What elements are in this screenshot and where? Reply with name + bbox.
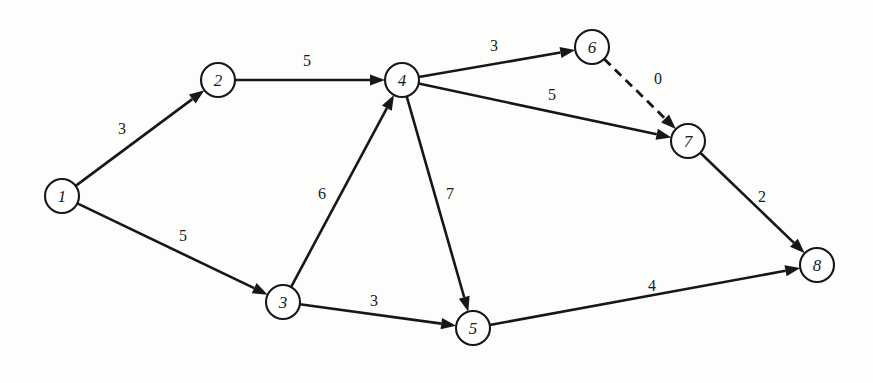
edge-weight-2-4: 5 xyxy=(303,52,311,69)
node-4[interactable]: 4 xyxy=(385,63,419,97)
edge-weight-6-7: 0 xyxy=(654,70,662,87)
edge-weight-1-2: 3 xyxy=(118,120,126,137)
arrowhead-4-to-6 xyxy=(560,47,576,58)
node-6[interactable]: 6 xyxy=(575,30,609,64)
node-label-8: 8 xyxy=(813,256,822,275)
nodes-layer: 12345678 xyxy=(45,30,834,345)
edge-weight-7-8: 2 xyxy=(758,188,766,205)
node-8[interactable]: 8 xyxy=(800,248,834,282)
edge-weight-4-6: 3 xyxy=(490,37,498,54)
node-label-1: 1 xyxy=(58,187,67,206)
edge-6-to-7 xyxy=(604,59,665,119)
node-2[interactable]: 2 xyxy=(201,63,235,97)
edge-weight-4-5: 7 xyxy=(446,185,454,202)
arrowhead-2-to-4 xyxy=(370,74,385,85)
edge-1-to-2 xyxy=(76,99,193,186)
edge-weight-5-8: 4 xyxy=(648,277,656,294)
arrowhead-3-to-5 xyxy=(441,318,457,329)
edge-1-to-3 xyxy=(77,203,254,288)
edge-4-to-5 xyxy=(407,96,465,297)
node-label-4: 4 xyxy=(398,71,407,90)
arrowhead-3-to-4 xyxy=(382,95,394,111)
edge-weight-3-4: 6 xyxy=(318,185,326,202)
network-diagram: 35563735402 12345678 xyxy=(0,0,873,383)
arrowhead-4-to-5 xyxy=(459,296,470,312)
edge-weight-1-3: 5 xyxy=(179,227,187,244)
node-7[interactable]: 7 xyxy=(671,124,705,158)
node-label-6: 6 xyxy=(588,38,597,57)
arrowhead-4-to-7 xyxy=(656,129,672,140)
node-5[interactable]: 5 xyxy=(456,311,490,345)
edge-weight-4-7: 5 xyxy=(548,86,556,103)
node-3[interactable]: 3 xyxy=(266,285,300,319)
node-1[interactable]: 1 xyxy=(45,179,79,213)
edge-4-to-7 xyxy=(419,84,657,135)
node-label-5: 5 xyxy=(469,319,478,338)
edge-3-to-4 xyxy=(291,108,387,287)
edge-4-to-6 xyxy=(419,52,561,77)
edge-weight-3-5: 3 xyxy=(370,292,378,309)
arrowhead-1-to-2 xyxy=(189,90,204,103)
arrowhead-5-to-8 xyxy=(785,265,801,276)
node-label-3: 3 xyxy=(278,293,288,312)
edge-7-to-8 xyxy=(700,153,794,243)
graph-canvas: 35563735402 12345678 xyxy=(0,0,873,383)
arrowhead-1-to-3 xyxy=(252,283,268,295)
node-label-2: 2 xyxy=(214,71,223,90)
edge-5-to-8 xyxy=(490,271,786,325)
edges-layer xyxy=(76,52,794,324)
